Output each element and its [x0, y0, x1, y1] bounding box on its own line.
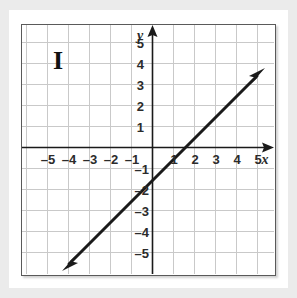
x-axis-label: x: [261, 152, 269, 167]
x-tick-label: 3: [212, 152, 219, 167]
coordinate-grid-svg: y x –5 –4 –3 –2 –1 1 2 3 4 5 5 4: [22, 25, 274, 274]
y-tick-label: 2: [137, 99, 144, 114]
x-tick-label: 2: [191, 152, 198, 167]
y-tick-label: –2: [135, 183, 149, 198]
y-tick-label: 5: [137, 36, 144, 51]
y-tick-label: –3: [135, 204, 149, 219]
y-axis: [148, 25, 158, 274]
y-tick-labels-negative: –1 –2 –3 –4 –5: [135, 162, 150, 261]
x-tick-label: –3: [83, 152, 97, 167]
x-tick-label: –2: [104, 152, 118, 167]
y-tick-label: –1: [135, 162, 149, 177]
x-tick-label: 1: [170, 152, 177, 167]
plotted-line: [62, 68, 265, 271]
y-tick-label: –5: [135, 246, 149, 261]
x-tick-labels-negative: –5 –4 –3 –2 –1: [41, 152, 139, 167]
figure-page: y x –5 –4 –3 –2 –1 1 2 3 4 5 5 4: [0, 0, 297, 298]
y-tick-labels-positive: 5 4 3 2 1: [137, 36, 145, 135]
y-tick-label: –4: [135, 225, 150, 240]
x-tick-labels-positive: 1 2 3 4 5: [170, 152, 261, 167]
x-tick-label: 5: [254, 152, 261, 167]
y-tick-label: 1: [137, 120, 144, 135]
panel-label: I: [53, 46, 63, 75]
y-tick-label: 4: [137, 57, 145, 72]
y-tick-label: 3: [137, 78, 144, 93]
coordinate-plane: y x –5 –4 –3 –2 –1 1 2 3 4 5 5 4: [21, 24, 276, 276]
x-tick-label: 4: [233, 152, 241, 167]
x-tick-label: –4: [62, 152, 77, 167]
x-tick-label: –5: [41, 152, 55, 167]
